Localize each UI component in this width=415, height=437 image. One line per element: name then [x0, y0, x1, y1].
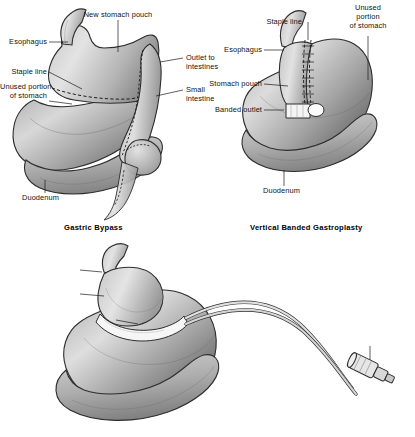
label-stomach-pouch: Stomach pouch [208, 80, 262, 89]
vbg-illustration [208, 0, 415, 240]
caption-gastric-bypass: Gastric Bypass [64, 223, 123, 232]
label-unused-line3: of stomach [340, 22, 396, 31]
leader-esophagus [80, 270, 102, 272]
stomach-group [242, 11, 377, 172]
label-staple-line: Staple line [254, 18, 302, 27]
label-unused-portion-line2: of stomach [0, 92, 47, 101]
label-duodenum: Duodenum [22, 194, 59, 203]
subcutaneous-port [346, 351, 397, 387]
label-new-stomach-pouch: New stomach pouch [58, 11, 178, 20]
label-duodenum: Duodenum [263, 187, 300, 196]
leader-unused [49, 101, 72, 104]
leader-outlet [160, 58, 183, 62]
stomach-pouch [279, 42, 312, 106]
banded-outlet [286, 104, 324, 119]
stomach-pouch [98, 267, 163, 326]
label-banded-outlet: Banded outlet [208, 106, 262, 115]
label-esophagus: Esophagus [208, 46, 262, 55]
label-staple-line: Staple line [0, 68, 47, 77]
caption-vertical-banded-gastroplasty: Vertical Banded Gastroplasty [250, 223, 363, 232]
gastric-bypass-illustration [0, 0, 210, 240]
label-esophagus: Esophagus [0, 38, 47, 47]
stomach-group [56, 244, 397, 421]
figure-gastric-bypass: New stomach pouch Esophagus Staple line … [0, 0, 210, 240]
figure-circumgastric-banding: Esophagus Stomach pouch Circumgastric ba… [0, 238, 415, 437]
circumgastric-banding-illustration [0, 238, 415, 437]
figure-vertical-banded-gastroplasty: Staple line Unused portion of stomach Es… [208, 0, 415, 240]
